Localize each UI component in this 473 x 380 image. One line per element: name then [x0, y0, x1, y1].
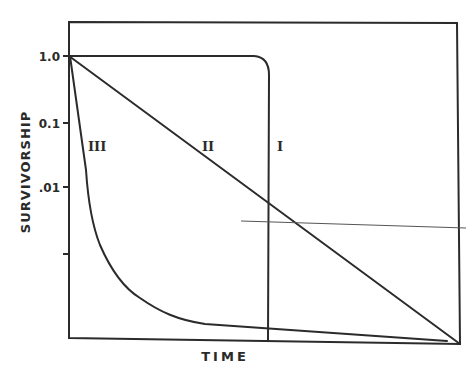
stray-horizontal-line	[241, 221, 466, 228]
y-tick-label-0-01: .01	[39, 181, 60, 195]
curve-type-I	[69, 56, 269, 340]
curve-label-I: I	[277, 139, 283, 154]
curve-type-II	[69, 56, 460, 344]
survivorship-chart: 1.0 0.1 .01 SURVIVORSHIP TIME III II I	[0, 0, 473, 380]
y-axis-label: SURVIVORSHIP	[18, 111, 33, 233]
plot-frame	[69, 22, 460, 344]
y-tick-label-1: 1.0	[39, 50, 60, 64]
y-tick-label-0-1: 0.1	[39, 117, 60, 131]
curve-label-II: II	[202, 139, 214, 154]
curve-label-III: III	[88, 139, 106, 154]
x-axis-label: TIME	[201, 349, 249, 364]
